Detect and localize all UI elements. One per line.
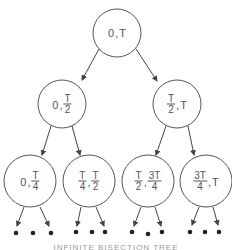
label-rr: 3T4 ,T [193,171,218,192]
fraction: T2 [167,94,175,115]
label-l: 0, T2 [52,94,71,115]
fraction: T2 [92,171,100,192]
fraction: 3T4 [148,171,162,192]
label-root: 0,T [108,27,126,39]
fraction: T4 [78,171,86,192]
figure-caption: INFINITE BISECTION TREE [0,243,232,250]
label-ll: 0, T4 [20,171,39,192]
label-rl: T2 , 3T4 [135,171,162,192]
fraction: T2 [135,171,143,192]
fraction: T4 [32,171,40,192]
fraction: T2 [64,94,72,115]
fraction: 3T4 [193,171,207,192]
label-lr: T4 , T2 [78,171,99,192]
label-r: T2 ,T [167,94,187,115]
continuation-dots [14,230,222,237]
